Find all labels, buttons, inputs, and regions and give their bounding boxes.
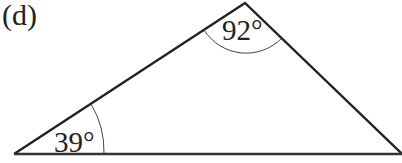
triangle-diagram: (d) 92° 39° <box>0 0 402 163</box>
angle-label-bottom-left: 39° <box>54 126 95 158</box>
figure-label: (d) <box>2 0 37 32</box>
angle-label-top: 92° <box>222 14 263 46</box>
